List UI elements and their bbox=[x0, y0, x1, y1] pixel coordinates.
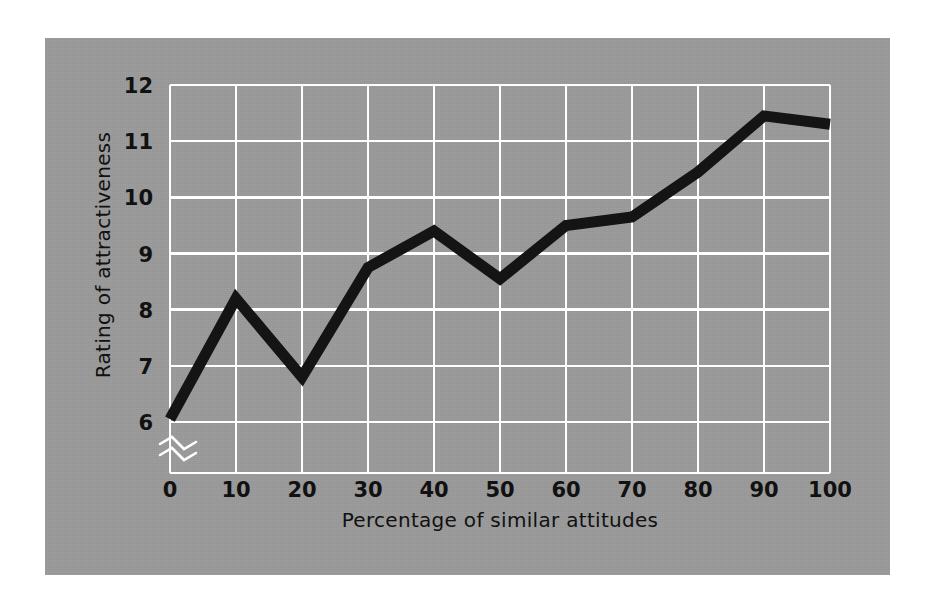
x-tick-label: 10 bbox=[221, 478, 250, 502]
x-axis-title: Percentage of similar attitudes bbox=[342, 508, 659, 532]
line-chart: 6789101112 0102030405060708090100 Percen… bbox=[0, 0, 929, 611]
x-tick-label: 20 bbox=[287, 478, 316, 502]
x-tick-label: 70 bbox=[617, 478, 646, 502]
y-axis-title: Rating of attractiveness bbox=[91, 132, 115, 378]
x-tick-label: 50 bbox=[485, 478, 514, 502]
y-axis-tick-labels: 6789101112 bbox=[124, 74, 153, 435]
x-axis-tick-labels: 0102030405060708090100 bbox=[163, 478, 852, 502]
y-tick-label: 6 bbox=[138, 411, 153, 435]
y-tick-label: 11 bbox=[124, 130, 153, 154]
x-tick-label: 90 bbox=[749, 478, 778, 502]
x-tick-label: 60 bbox=[551, 478, 580, 502]
x-tick-label: 100 bbox=[808, 478, 852, 502]
x-tick-label: 80 bbox=[683, 478, 712, 502]
x-tick-label: 0 bbox=[163, 478, 178, 502]
y-tick-label: 7 bbox=[138, 355, 153, 379]
y-tick-label: 12 bbox=[124, 74, 153, 98]
x-tick-label: 30 bbox=[353, 478, 382, 502]
x-tick-label: 40 bbox=[419, 478, 448, 502]
y-tick-label: 8 bbox=[138, 299, 153, 323]
y-axis-break-icon bbox=[160, 437, 196, 460]
y-tick-label: 10 bbox=[124, 186, 153, 210]
y-tick-label: 9 bbox=[138, 243, 153, 267]
